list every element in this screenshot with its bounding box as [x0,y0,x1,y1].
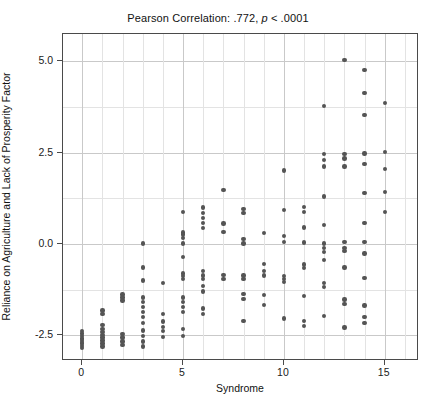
data-point [141,278,145,282]
data-point [201,205,205,209]
data-point [302,225,306,229]
data-point [302,294,306,298]
data-point [362,240,366,244]
data-point [241,277,245,281]
data-point [120,298,124,302]
data-point [181,255,185,259]
data-point [241,211,245,215]
data-point [181,277,185,281]
gridline-vertical [284,34,285,359]
data-point [322,258,326,262]
data-point [201,216,205,220]
data-point [141,334,145,338]
data-point [181,236,185,240]
data-point [100,344,104,348]
data-point [342,249,346,253]
data-point [322,250,326,254]
gridline-vertical [223,34,224,359]
data-point [221,188,225,192]
data-point [322,158,326,162]
data-point [181,305,185,309]
x-tick-label: 5 [162,366,202,378]
data-point [342,302,346,306]
data-point [181,327,185,331]
data-point [161,312,165,316]
data-point [362,251,366,255]
data-point [181,334,185,338]
data-point [362,113,366,117]
data-point [362,303,366,307]
data-point [342,240,346,244]
gridline-vertical [163,34,164,359]
data-point [161,329,165,333]
data-point [141,305,145,309]
data-point [342,156,346,160]
data-point [262,262,266,266]
data-point [282,234,286,238]
data-point [302,205,306,209]
data-point [201,221,205,225]
data-point [161,335,165,339]
data-point [221,277,225,281]
data-point [262,303,266,307]
data-point [362,151,366,155]
data-point [161,319,165,323]
data-point [342,265,346,269]
data-point [141,344,145,348]
gridline-vertical [264,34,265,359]
data-point [201,226,205,230]
y-tick-label: 0.0 [9,237,53,249]
x-tick-label: 10 [263,366,303,378]
data-point [362,321,366,325]
data-point [201,277,205,281]
data-point [282,280,286,284]
data-point [221,221,225,225]
y-tick-label: 5.0 [9,54,53,66]
data-point [141,310,145,314]
data-point [181,300,185,304]
data-point [241,241,245,245]
data-point [181,295,185,299]
data-point [302,324,306,328]
data-point [141,241,145,245]
chart-title-prefix: Pearson Correlation: .772, [127,12,258,24]
data-point [141,339,145,343]
data-point [262,273,266,277]
x-tick-mark [81,360,82,365]
data-point [322,314,326,318]
data-point [201,312,205,316]
data-point [362,91,366,95]
data-point [120,343,124,347]
x-tick-mark [182,360,183,365]
x-tick-mark [384,360,385,365]
data-point [100,312,104,316]
data-point [383,150,387,154]
data-point [302,210,306,214]
data-point [362,162,366,166]
plot-area [62,33,418,360]
data-point [362,315,366,319]
data-point [141,321,145,325]
data-point [201,306,205,310]
data-point [383,101,387,105]
data-point [302,319,306,323]
data-point [362,191,366,195]
data-point [322,152,326,156]
data-point [201,211,205,215]
data-point [383,210,387,214]
x-tick-label: 0 [61,366,101,378]
data-point [201,284,205,288]
data-point [302,266,306,270]
gridline-vertical [304,34,305,359]
data-point [241,319,245,323]
data-point [161,281,165,285]
data-point [181,241,185,245]
data-point [362,276,366,280]
x-tick-label: 15 [364,366,404,378]
data-point [302,240,306,244]
data-point [282,168,286,172]
gridline-vertical [365,34,366,359]
data-point [322,164,326,168]
data-point [241,292,245,296]
data-point [383,190,387,194]
